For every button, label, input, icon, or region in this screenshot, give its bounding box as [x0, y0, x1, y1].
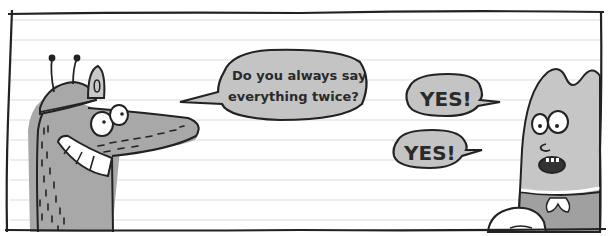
- question-line-2: everything twice?: [228, 89, 359, 104]
- yes-top-text: YES!: [419, 87, 472, 111]
- comic-panel: Do you always say everything twice? YES!…: [0, 0, 608, 236]
- yes-bottom-text: YES!: [403, 141, 456, 165]
- question-line-1: Do you always say: [232, 68, 367, 83]
